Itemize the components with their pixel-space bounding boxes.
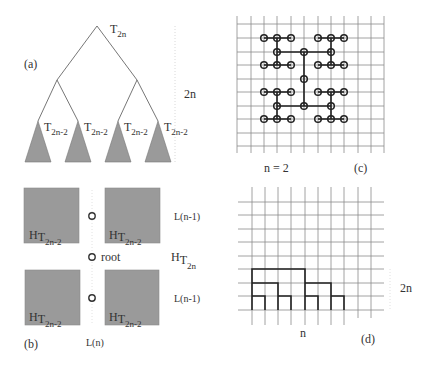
n-value-label: n = 2 xyxy=(264,161,289,175)
htree-whole-label: HT2n xyxy=(171,250,197,271)
grid-d-lines xyxy=(238,187,384,325)
subtree-label-1: T2n-2 xyxy=(44,120,68,137)
panel-b-htree: HT2n-2 HT2n-2 HT2n-2 HT2n-2 root L(n-1) … xyxy=(24,188,200,351)
panel-c-grid-embedding: n = 2 (c) xyxy=(237,16,384,175)
root-tree-label: T2n xyxy=(110,22,127,39)
subtree-label-3: T2n-2 xyxy=(124,120,148,137)
width-n-label: n xyxy=(300,326,306,340)
bottom-width-label: L(n) xyxy=(86,337,104,349)
panel-c-label: (c) xyxy=(354,161,367,175)
node-top xyxy=(89,213,95,219)
panel-b-label: (b) xyxy=(24,337,38,351)
panel-d-grid-layout: n 2n (d) xyxy=(238,187,412,346)
tree-edges xyxy=(38,26,158,121)
panel-a-tree: (a) T2n 2n T2n-2 T2n-2 T2n-2 T2n-2 xyxy=(24,22,196,162)
subtree-label-2: T2n-2 xyxy=(84,120,108,137)
side-label-bottom: L(n-1) xyxy=(174,293,200,305)
node-bottom xyxy=(89,295,95,301)
panel-a-label: (a) xyxy=(24,57,37,71)
panel-d-label: (d) xyxy=(361,332,375,346)
staircase-tree-edges xyxy=(252,269,344,310)
tree-height-label: 2n xyxy=(184,87,196,101)
figure-canvas: (a) T2n 2n T2n-2 T2n-2 T2n-2 T2n-2 HT2n-… xyxy=(0,0,432,367)
side-label-top: L(n-1) xyxy=(174,211,200,223)
grid-c-lines xyxy=(237,16,384,153)
root-label: root xyxy=(101,250,121,264)
subtree-label-4: T2n-2 xyxy=(164,120,188,137)
height-2n-label: 2n xyxy=(400,281,412,295)
node-root xyxy=(89,254,95,260)
